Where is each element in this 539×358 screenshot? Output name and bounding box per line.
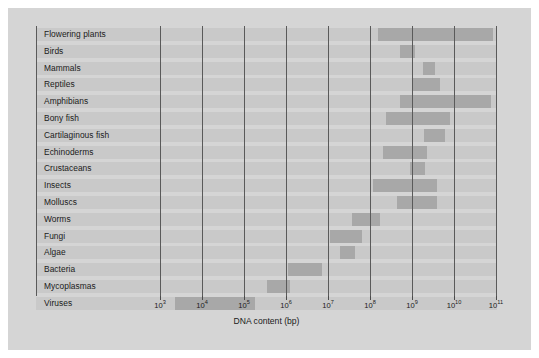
category-label: Reptiles bbox=[44, 79, 75, 90]
range-bar bbox=[352, 213, 380, 226]
gridline bbox=[412, 26, 413, 296]
axis-tick bbox=[370, 296, 371, 300]
chart-row: Insects bbox=[36, 179, 497, 192]
range-bar bbox=[340, 246, 355, 259]
range-bar bbox=[424, 129, 445, 142]
axis-tick bbox=[328, 296, 329, 300]
gridline bbox=[370, 26, 371, 296]
chart-row: Echinoderms bbox=[36, 146, 497, 159]
axis-tick-label: 1011 bbox=[489, 301, 503, 310]
category-label: Algae bbox=[44, 247, 66, 258]
x-axis: 10310410510610710810910101011 DNA conten… bbox=[36, 296, 497, 350]
range-bar bbox=[397, 196, 437, 209]
chart-row: Crustaceans bbox=[36, 162, 497, 175]
plot-frame-right bbox=[496, 26, 497, 296]
gridline bbox=[202, 26, 203, 296]
category-label: Crustaceans bbox=[44, 163, 92, 174]
axis-tick bbox=[160, 296, 161, 300]
axis-tick-label: 1010 bbox=[447, 301, 462, 310]
axis-tick-label: 109 bbox=[406, 301, 418, 310]
chart-row: Worms bbox=[36, 213, 497, 226]
axis-tick-label: 107 bbox=[322, 301, 334, 310]
gridline bbox=[328, 26, 329, 296]
category-label: Insects bbox=[44, 180, 71, 191]
x-axis-label: DNA content (bp) bbox=[36, 316, 497, 326]
gridline bbox=[244, 26, 245, 296]
axis-tick-label: 104 bbox=[196, 301, 208, 310]
axis-tick-label: 105 bbox=[238, 301, 250, 310]
axis-tick bbox=[412, 296, 413, 300]
range-bar bbox=[373, 179, 437, 192]
axis-tick-label: 103 bbox=[154, 301, 166, 310]
axis-tick-label: 106 bbox=[280, 301, 292, 310]
range-bar bbox=[378, 28, 493, 41]
chart-row: Bacteria bbox=[36, 263, 497, 276]
category-label: Amphibians bbox=[44, 96, 88, 107]
gridline bbox=[454, 26, 455, 296]
range-bar bbox=[423, 62, 435, 75]
category-label: Flowering plants bbox=[44, 29, 106, 40]
range-bar bbox=[400, 95, 491, 108]
category-label: Echinoderms bbox=[44, 147, 93, 158]
chart-row: Fungi bbox=[36, 230, 497, 243]
category-label: Mycoplasmas bbox=[44, 281, 96, 292]
category-label: Molluscs bbox=[44, 197, 77, 208]
gridline bbox=[286, 26, 287, 296]
range-bar bbox=[413, 78, 440, 91]
chart-row: Mammals bbox=[36, 62, 497, 75]
chart-row: Cartilaginous fish bbox=[36, 129, 497, 142]
category-label: Mammals bbox=[44, 63, 81, 74]
chart-row: Bony fish bbox=[36, 112, 497, 125]
axis-tick bbox=[286, 296, 287, 300]
category-label: Birds bbox=[44, 46, 63, 57]
chart-row: Mycoplasmas bbox=[36, 280, 497, 293]
gridline bbox=[160, 26, 161, 296]
figure-panel: Flowering plantsBirdsMammalsReptilesAmph… bbox=[8, 8, 531, 350]
category-label: Bony fish bbox=[44, 113, 79, 124]
axis-tick-label: 108 bbox=[364, 301, 376, 310]
chart-plot-area: Flowering plantsBirdsMammalsReptilesAmph… bbox=[36, 26, 497, 296]
chart-row: Algae bbox=[36, 246, 497, 259]
range-bar bbox=[330, 230, 362, 243]
axis-tick bbox=[244, 296, 245, 300]
chart-row: Molluscs bbox=[36, 196, 497, 209]
range-bar bbox=[288, 263, 322, 276]
category-label: Cartilaginous fish bbox=[44, 130, 109, 141]
chart-row: Flowering plants bbox=[36, 28, 497, 41]
category-label: Worms bbox=[44, 214, 71, 225]
axis-tick bbox=[202, 296, 203, 300]
plot-frame-left bbox=[36, 26, 37, 296]
range-bar bbox=[386, 112, 450, 125]
chart-row: Reptiles bbox=[36, 78, 497, 91]
chart-row: Birds bbox=[36, 45, 497, 58]
category-label: Fungi bbox=[44, 231, 65, 242]
category-label: Bacteria bbox=[44, 264, 75, 275]
range-bar bbox=[383, 146, 427, 159]
chart-row: Amphibians bbox=[36, 95, 497, 108]
